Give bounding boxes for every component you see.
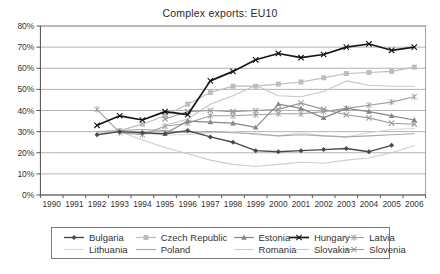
legend-swatch-diamond-icon (63, 233, 85, 242)
x-tick-label: 2004 (360, 199, 379, 209)
x-tick-label: 1990 (42, 199, 61, 209)
legend-swatch-square-icon (135, 233, 157, 242)
x-tick-label: 1996 (178, 199, 197, 209)
marker-square (185, 102, 190, 107)
marker-square (253, 84, 258, 89)
marker-diamond (321, 147, 326, 152)
legend-label: Latvia (369, 232, 394, 243)
x-tick-label: 2002 (314, 199, 333, 209)
legend-label: Bulgaria (89, 232, 124, 243)
marker-square (298, 79, 303, 84)
legend-item-czech-republic: Czech Republic (135, 232, 233, 243)
y-tick-label: 30% (17, 127, 34, 137)
legend-swatch-none-icon (63, 245, 85, 254)
x-tick-label: 1993 (110, 199, 129, 209)
legend-swatch-asterisk-icon (343, 233, 365, 242)
legend-label: Poland (161, 244, 191, 255)
y-tick-label: 40% (17, 106, 34, 116)
x-tick-label: 2005 (382, 199, 401, 209)
x-tick-label: 1997 (201, 199, 220, 209)
legend-swatch-none-icon (233, 245, 255, 254)
legend-item-slovenia: Slovenia (343, 244, 389, 255)
series-line-romania (120, 132, 415, 167)
x-tick-label: 2000 (269, 199, 288, 209)
x-tick-label: 2006 (405, 199, 424, 209)
marker-square (366, 70, 371, 75)
legend-label: Lithuania (89, 244, 128, 255)
marker-square (344, 71, 349, 76)
legend-item-lithuania: Lithuania (63, 244, 135, 255)
legend-item-romania: Romania (233, 244, 288, 255)
chart-figure: Complex exports: EU10 0%10%20%30%40%50%6… (0, 0, 440, 274)
marker-diamond (276, 149, 281, 154)
x-tick-label: 2003 (337, 199, 356, 209)
legend-swatch-none-icon (288, 245, 310, 254)
marker-square (143, 235, 148, 240)
legend-label: Estonia (259, 232, 291, 243)
legend-label: Slovenia (369, 244, 405, 255)
marker-diamond (72, 235, 77, 240)
marker-square (389, 69, 394, 74)
legend-item-hungary: Hungary (288, 232, 343, 243)
chart-legend: BulgariaCzech RepublicEstoniaHungaryLatv… (51, 227, 390, 259)
marker-square (276, 82, 281, 87)
marker-diamond (344, 146, 349, 151)
marker-diamond (208, 134, 213, 139)
x-tick-label: 1992 (88, 199, 107, 209)
legend-swatch-x-icon (288, 233, 310, 242)
y-tick-label: 20% (17, 148, 34, 158)
x-tick-label: 1994 (133, 199, 152, 209)
marker-square (412, 65, 417, 70)
x-tick-label: 1995 (156, 199, 175, 209)
marker-diamond (231, 140, 236, 145)
marker-triangle (276, 101, 282, 106)
marker-square (231, 84, 236, 89)
marker-diamond (389, 143, 394, 148)
x-tick-label: 1999 (246, 199, 265, 209)
marker-square (208, 90, 213, 95)
marker-asterisk (94, 106, 99, 112)
legend-item-estonia: Estonia (233, 232, 288, 243)
legend-item-bulgaria: Bulgaria (63, 232, 135, 243)
legend-item-slovakia: Slovakia (288, 244, 343, 255)
y-tick-label: 0% (22, 190, 35, 200)
y-tick-label: 10% (17, 169, 34, 179)
y-tick-label: 80% (17, 21, 34, 31)
legend-item-latvia: Latvia (343, 232, 389, 243)
legend-swatch-triangle-icon (233, 233, 255, 242)
series-line-czech-republic (120, 67, 415, 130)
x-tick-label: 2001 (292, 199, 311, 209)
marker-diamond (366, 149, 371, 154)
legend-item-poland: Poland (135, 244, 233, 255)
legend-swatch-none-icon (135, 245, 157, 254)
y-tick-label: 50% (17, 84, 34, 94)
marker-square (321, 75, 326, 80)
x-tick-label: 1991 (65, 199, 84, 209)
x-tick-label: 1998 (224, 199, 243, 209)
legend-swatch-x-icon (343, 245, 365, 254)
legend-label: Czech Republic (161, 232, 228, 243)
y-tick-label: 60% (17, 63, 34, 73)
y-tick-label: 70% (17, 42, 34, 52)
